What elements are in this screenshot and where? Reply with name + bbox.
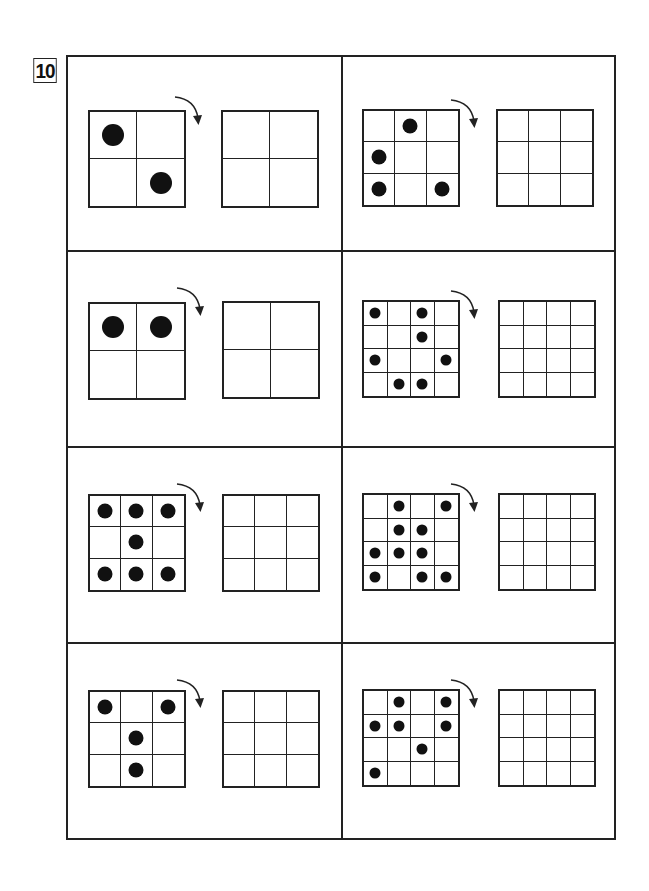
grid-cell[interactable] bbox=[224, 303, 271, 350]
grid-cell[interactable] bbox=[498, 142, 529, 173]
grid-cell[interactable] bbox=[547, 302, 571, 326]
grid-cell[interactable] bbox=[524, 738, 548, 762]
grid-cell[interactable] bbox=[224, 559, 255, 590]
answer-grid-r2c1[interactable] bbox=[222, 301, 320, 399]
grid-cell[interactable] bbox=[500, 738, 524, 762]
grid-cell[interactable] bbox=[270, 159, 317, 206]
grid-cell[interactable] bbox=[255, 527, 286, 558]
grid-cell[interactable] bbox=[524, 326, 548, 350]
grid-cell[interactable] bbox=[547, 519, 571, 543]
grid-cell[interactable] bbox=[255, 755, 286, 786]
grid-cell[interactable] bbox=[524, 302, 548, 326]
grid-cell[interactable] bbox=[529, 111, 560, 142]
grid-cell[interactable] bbox=[561, 111, 592, 142]
grid-cell[interactable] bbox=[498, 174, 529, 205]
grid-cell[interactable] bbox=[271, 303, 318, 350]
grid-cell[interactable] bbox=[223, 159, 270, 206]
grid-cell[interactable] bbox=[255, 496, 286, 527]
grid-cell[interactable] bbox=[524, 542, 548, 566]
grid-cell[interactable] bbox=[547, 349, 571, 373]
grid-cell bbox=[121, 723, 152, 754]
grid-cell[interactable] bbox=[547, 715, 571, 739]
grid-cell[interactable] bbox=[524, 566, 548, 590]
grid-cell[interactable] bbox=[287, 527, 318, 558]
grid-cell[interactable] bbox=[271, 350, 318, 397]
answer-grid-r1c1[interactable] bbox=[221, 110, 319, 208]
answer-grid-r3c1[interactable] bbox=[222, 494, 320, 592]
grid-cell[interactable] bbox=[571, 715, 595, 739]
grid-cell[interactable] bbox=[547, 738, 571, 762]
grid-cell[interactable] bbox=[500, 302, 524, 326]
grid-cell[interactable] bbox=[224, 723, 255, 754]
grid-cell[interactable] bbox=[500, 349, 524, 373]
grid-cell[interactable] bbox=[547, 691, 571, 715]
grid-cell[interactable] bbox=[524, 349, 548, 373]
dot-icon bbox=[441, 572, 452, 583]
grid-cell[interactable] bbox=[571, 566, 595, 590]
grid-cell[interactable] bbox=[571, 542, 595, 566]
grid-cell[interactable] bbox=[571, 302, 595, 326]
grid-cell[interactable] bbox=[500, 715, 524, 739]
grid-cell[interactable] bbox=[498, 111, 529, 142]
grid-cell[interactable] bbox=[524, 762, 548, 786]
grid-cell[interactable] bbox=[571, 738, 595, 762]
answer-grid-r4c1[interactable] bbox=[222, 690, 320, 788]
grid-cell[interactable] bbox=[529, 142, 560, 173]
grid-cell[interactable] bbox=[561, 142, 592, 173]
grid-cell[interactable] bbox=[571, 326, 595, 350]
grid-cell bbox=[121, 559, 152, 590]
grid-cell[interactable] bbox=[547, 566, 571, 590]
dot-icon bbox=[393, 720, 404, 731]
grid-cell[interactable] bbox=[571, 495, 595, 519]
grid-cell[interactable] bbox=[270, 112, 317, 159]
grid-cell[interactable] bbox=[255, 559, 286, 590]
grid-cell[interactable] bbox=[224, 527, 255, 558]
grid-cell bbox=[121, 527, 152, 558]
grid-cell[interactable] bbox=[524, 691, 548, 715]
grid-cell[interactable] bbox=[500, 762, 524, 786]
grid-cell[interactable] bbox=[287, 755, 318, 786]
grid-cell[interactable] bbox=[287, 692, 318, 723]
grid-cell[interactable] bbox=[524, 495, 548, 519]
grid-cell[interactable] bbox=[500, 542, 524, 566]
grid-cell[interactable] bbox=[524, 373, 548, 397]
grid-cell[interactable] bbox=[224, 350, 271, 397]
grid-cell[interactable] bbox=[255, 723, 286, 754]
grid-cell[interactable] bbox=[571, 349, 595, 373]
grid-cell[interactable] bbox=[547, 495, 571, 519]
grid-cell[interactable] bbox=[500, 326, 524, 350]
grid-cell[interactable] bbox=[287, 723, 318, 754]
grid-cell[interactable] bbox=[524, 519, 548, 543]
grid-cell[interactable] bbox=[287, 559, 318, 590]
answer-grid-r2c2[interactable] bbox=[498, 300, 596, 398]
grid-cell[interactable] bbox=[500, 519, 524, 543]
grid-cell[interactable] bbox=[224, 692, 255, 723]
grid-cell[interactable] bbox=[571, 762, 595, 786]
grid-cell[interactable] bbox=[223, 112, 270, 159]
grid-cell[interactable] bbox=[571, 373, 595, 397]
grid-cell bbox=[364, 142, 395, 173]
grid-cell[interactable] bbox=[500, 495, 524, 519]
grid-cell[interactable] bbox=[547, 762, 571, 786]
grid-cell[interactable] bbox=[255, 692, 286, 723]
grid-cell[interactable] bbox=[561, 174, 592, 205]
grid-cell[interactable] bbox=[224, 755, 255, 786]
grid-cell[interactable] bbox=[547, 373, 571, 397]
answer-grid-r3c2[interactable] bbox=[498, 493, 596, 591]
answer-grid-r4c2[interactable] bbox=[498, 689, 596, 787]
grid-cell[interactable] bbox=[547, 542, 571, 566]
rotate-clockwise-arrow-icon bbox=[175, 677, 207, 711]
grid-cell[interactable] bbox=[224, 496, 255, 527]
dot-icon bbox=[372, 182, 387, 197]
grid-cell[interactable] bbox=[524, 715, 548, 739]
grid-cell[interactable] bbox=[547, 326, 571, 350]
grid-cell[interactable] bbox=[571, 691, 595, 715]
grid-cell[interactable] bbox=[571, 519, 595, 543]
grid-cell[interactable] bbox=[500, 373, 524, 397]
grid-cell[interactable] bbox=[500, 691, 524, 715]
grid-cell[interactable] bbox=[287, 496, 318, 527]
grid-cell[interactable] bbox=[529, 174, 560, 205]
grid-cell[interactable] bbox=[500, 566, 524, 590]
grid-cell bbox=[90, 723, 121, 754]
answer-grid-r1c2[interactable] bbox=[496, 109, 594, 207]
